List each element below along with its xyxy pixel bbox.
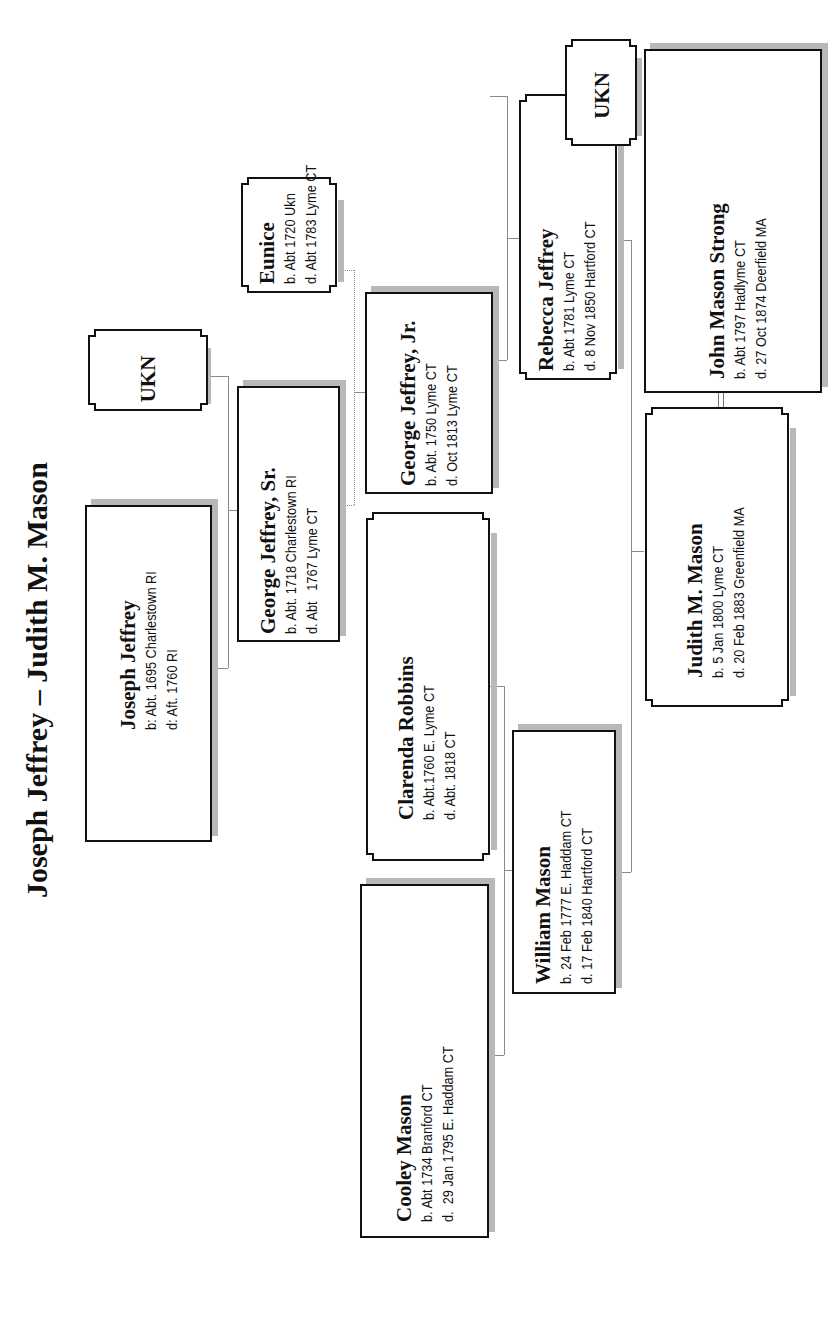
person-death: d. 17 Feb 1840 Hartford CT <box>576 828 597 984</box>
connector-ukn2 <box>490 96 507 97</box>
chart-title: Joseph Jeffrey – Judith M. Mason <box>14 350 60 1010</box>
person-death: d. Abt 1767 Lyme CT <box>301 508 322 634</box>
person-name: UKN <box>590 72 615 119</box>
person-death: d. Abt. 1818 CT <box>439 731 460 820</box>
person-birth: b. Abt 1734 Branford CT <box>416 1084 437 1222</box>
person-name: Joseph Jeffrey <box>116 600 140 730</box>
person-box-george-jeffrey-jr[interactable]: George Jeffrey, Jr. b. Abt. 1750 Lyme CT… <box>365 292 493 494</box>
person-box-william-mason[interactable]: William Mason b. 24 Feb 1777 E. Haddam C… <box>512 730 616 994</box>
person-name: William Mason <box>531 846 555 984</box>
person-box-george-jeffrey-sr[interactable]: George Jeffrey, Sr. b. Abt. 1718 Charles… <box>237 386 340 642</box>
connector-cooley <box>488 1055 504 1056</box>
person-box-ukn-1[interactable]: UKN <box>85 330 211 410</box>
connector-william <box>614 872 631 873</box>
person-box-eunice[interactable]: Eunice b. Abt 1720 Ukn d. Abt 1783 Lyme … <box>238 178 344 292</box>
connector-gen2-vertical <box>354 270 355 505</box>
person-death: d. Abt 1783 Lyme CT <box>300 165 321 284</box>
connector-george-sr <box>338 505 354 506</box>
person-name: George Jeffrey, Sr. <box>256 467 280 634</box>
person-box-joseph-jeffrey[interactable]: Joseph Jeffrey b: Abt. 1695 Charlestown … <box>85 505 212 842</box>
person-name: Clarenda Robbins <box>394 656 418 820</box>
person-death: d. Oct 1813 Lyme CT <box>441 365 462 486</box>
person-death: d. 8 Nov 1850 Hartford CT <box>579 221 600 371</box>
person-birth: b. Abt 1797 Hadlyme CT <box>729 240 750 379</box>
person-box-cooley-mason[interactable]: Cooley Mason b. Abt 1734 Branford CT d. … <box>360 884 489 1238</box>
person-box-john-mason-strong[interactable]: John Mason Strong b. Abt 1797 Hadlyme CT… <box>644 49 822 393</box>
person-name: Eunice <box>255 222 279 284</box>
person-name: UKN <box>136 356 161 403</box>
connector-joseph <box>210 668 228 669</box>
person-death: d. 20 Feb 1883 Greenfield MA <box>728 507 749 678</box>
connector-gen4-vertical <box>507 96 508 360</box>
person-birth: b. Abt.1760 E. Lyme CT <box>418 685 439 820</box>
person-box-clarenda-robbins[interactable]: Clarenda Robbins b. Abt.1760 E. Lyme CT … <box>363 513 497 860</box>
person-box-ukn-2[interactable]: UKN <box>562 40 642 145</box>
person-birth: b. Abt. 1750 Lyme CT <box>420 363 441 486</box>
person-death: d. 29 Jan 1795 E. Haddam CT <box>437 1046 458 1222</box>
person-birth: b. Abt 1781 Lyme CT <box>558 252 579 371</box>
person-name: John Mason Strong <box>705 203 729 379</box>
person-name: Rebecca Jeffrey <box>534 229 558 371</box>
person-birth: b. 5 Jan 1800 Lyme CT <box>707 546 728 678</box>
person-name: Judith M. Mason <box>683 523 707 678</box>
person-death: d. 27 Oct 1874 Deerfield MA <box>750 218 771 379</box>
person-name: Cooley Mason <box>392 1094 416 1222</box>
person-birth: b: Abt. 1695 Charlestown RI <box>140 571 161 730</box>
person-name: George Jeffrey, Jr. <box>396 320 420 486</box>
connector-gen5-vertical <box>631 240 632 872</box>
person-birth: b. Abt 1720 Ukn <box>279 193 300 284</box>
connector-gen1-vertical <box>228 376 229 668</box>
person-box-judith-mason[interactable]: Judith M. Mason b. 5 Jan 1800 Lyme CT d.… <box>642 408 796 706</box>
person-death: d: Aft. 1760 RI <box>161 649 182 730</box>
person-birth: b. Abt. 1718 Charlestown RI <box>280 475 301 634</box>
connector-ukn1 <box>210 376 228 377</box>
person-birth: b. 24 Feb 1777 E. Haddam CT <box>555 810 576 984</box>
